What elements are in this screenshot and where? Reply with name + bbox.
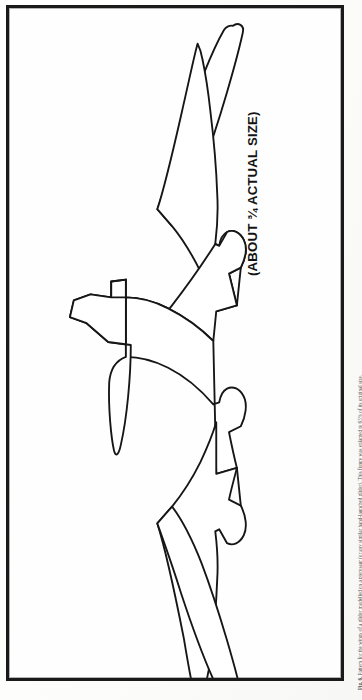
figure-caption-label: Fig. 6. <box>357 677 362 690</box>
size-note-label: (ABOUT ¾ ACTUAL SIZE) <box>245 66 260 276</box>
pterosaur-wing-pattern-drawing <box>9 8 341 678</box>
figure-caption-text: Pattern for the wings of a glider modell… <box>357 375 362 675</box>
wing-membrane-lower <box>126 297 246 473</box>
figure-plate <box>9 8 341 678</box>
membrane-scallop-upper <box>237 268 241 306</box>
scanned-page: (ABOUT ¾ ACTUAL SIZE) Fig. 6. Pattern fo… <box>0 0 362 700</box>
membrane-scallop-lower <box>237 468 241 506</box>
figure-caption: Fig. 6. Pattern for the wings of a glide… <box>357 6 362 690</box>
crest-spur <box>70 294 131 454</box>
figure-frame-border: (ABOUT ¾ ACTUAL SIZE) <box>6 5 344 681</box>
